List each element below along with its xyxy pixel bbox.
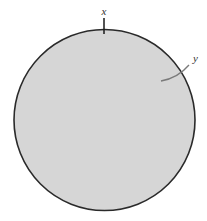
circle-region — [14, 30, 195, 211]
circle-diagram: x y — [0, 0, 207, 221]
label-y: y — [192, 52, 198, 64]
label-x: x — [101, 5, 107, 17]
